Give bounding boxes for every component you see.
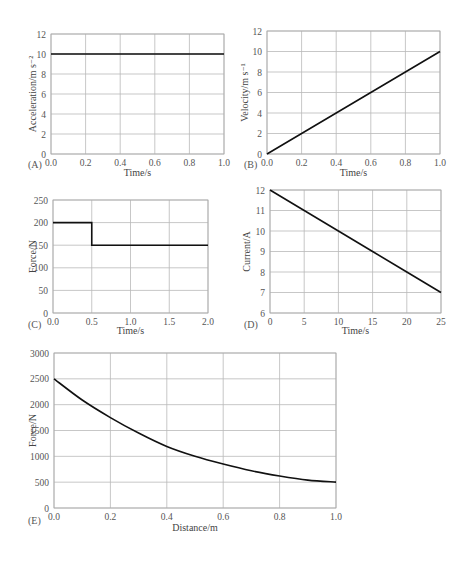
y-axis-label: Force/N [27,414,38,447]
x-tick-label: 0.8 [274,512,286,522]
gridlines [54,353,336,508]
y-tick-label: 500 [35,478,50,488]
x-tick-label: 0.4 [161,512,173,522]
x-tick-label: 1.0 [330,512,342,522]
x-tick-label: 0.2 [104,512,116,522]
y-tick-label: 3000 [30,349,49,359]
chart-e-svg: 0.00.20.40.60.81.00500100015002000250030… [0,0,474,561]
x-axis-label: Distance/m [172,522,218,533]
y-tick-label: 1000 [30,452,49,462]
y-tick-label: 2500 [30,374,49,384]
panel-label: (E) [28,515,41,527]
x-tick-label: 0.6 [217,512,229,522]
chart-panel-e: 0.00.20.40.60.81.00500100015002000250030… [0,0,474,561]
y-tick-label: 0 [44,504,49,514]
y-tick-label: 2000 [30,400,49,410]
x-tick-label: 0.0 [48,512,60,522]
